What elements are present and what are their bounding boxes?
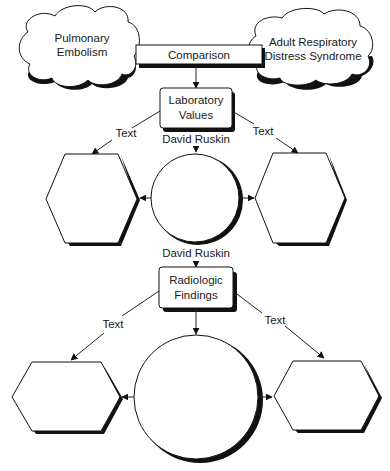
hexagon-radio-left[interactable] bbox=[12, 362, 123, 434]
edge-radio-left-a bbox=[122, 291, 159, 316]
cloud-label-line-1: Adult Respiratory bbox=[269, 36, 357, 48]
edge-lab-left-b bbox=[92, 140, 112, 154]
laboratory-values-node[interactable]: Laboratory Values bbox=[160, 88, 235, 132]
edge-label-circle-to-radio: David Ruskin bbox=[162, 247, 230, 259]
comparison-label: Comparison bbox=[168, 49, 230, 61]
hexagon-lab-right[interactable] bbox=[255, 153, 347, 246]
cloud-label-line-1: Pulmonary bbox=[55, 32, 110, 44]
cloud-pulmonary-embolism[interactable]: Pulmonary Embolism bbox=[19, 6, 139, 90]
radiologic-findings-node[interactable]: Radiologic Findings bbox=[159, 267, 237, 312]
comparison-node[interactable]: Comparison bbox=[136, 45, 265, 68]
circle-lab[interactable] bbox=[151, 154, 243, 245]
edge-lab-right-b bbox=[276, 138, 298, 153]
lab-label-line-2: Values bbox=[179, 109, 214, 121]
edge-label-lab-right: Text bbox=[252, 125, 274, 137]
edge-radio-right-b bbox=[285, 326, 324, 358]
radio-label-line-2: Findings bbox=[174, 289, 218, 301]
concept-map-canvas: Pulmonary Embolism Adult Respiratory Dis… bbox=[0, 0, 390, 471]
edge-label-lab-left: Text bbox=[115, 127, 137, 139]
circle-radio[interactable] bbox=[134, 335, 263, 463]
radio-label-line-1: Radiologic bbox=[169, 274, 223, 286]
edge-label-radio-left: Text bbox=[102, 318, 124, 330]
edge-lab-right-a bbox=[232, 111, 254, 124]
hexagon-radio-right[interactable] bbox=[274, 361, 382, 433]
hexagon-lab-left[interactable] bbox=[46, 154, 140, 246]
edge-lab-left-a bbox=[132, 111, 160, 128]
edge-label-radio-right: Text bbox=[264, 314, 286, 326]
cloud-ards[interactable]: Adult Respiratory Distress Syndrome bbox=[249, 8, 374, 89]
edge-label-lab-to-circle: David Ruskin bbox=[162, 133, 230, 145]
edge-radio-right-a bbox=[233, 291, 262, 313]
cloud-label-line-2: Embolism bbox=[57, 46, 107, 58]
edge-radio-left-b bbox=[71, 333, 104, 360]
cloud-label-line-2: Distress Syndrome bbox=[264, 50, 361, 62]
lab-label-line-1: Laboratory bbox=[169, 94, 224, 106]
